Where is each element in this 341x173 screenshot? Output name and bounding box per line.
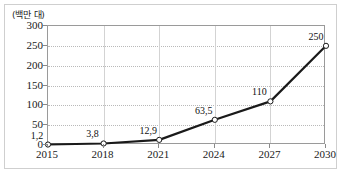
y-axis-tick-mark xyxy=(43,25,47,26)
x-axis-tick-mark xyxy=(269,144,270,148)
data-point-label: 3,8 xyxy=(86,128,99,139)
line-series xyxy=(48,26,326,145)
data-point-label: 1,2 xyxy=(31,130,44,141)
data-point-marker xyxy=(268,99,273,104)
y-axis-tick-label: 200 xyxy=(0,59,43,71)
y-axis-tick-label: 50 xyxy=(0,118,43,130)
data-point-label: 12,9 xyxy=(139,125,157,136)
data-point-label: 250 xyxy=(309,31,324,42)
plot-area xyxy=(47,25,325,144)
x-axis-tick-mark xyxy=(214,144,215,148)
y-axis-tick-label: 150 xyxy=(0,79,43,91)
y-axis-tick-label: 300 xyxy=(0,19,43,31)
x-axis-tick-label: 2024 xyxy=(203,148,225,160)
x-axis-tick-label: 2027 xyxy=(258,148,280,160)
y-axis-tick-label: 100 xyxy=(0,98,43,110)
data-point-marker xyxy=(212,117,217,122)
y-axis-tick-mark xyxy=(43,104,47,105)
x-axis-tick-mark xyxy=(158,144,159,148)
x-axis-tick-mark xyxy=(47,144,48,148)
y-axis-tick-mark xyxy=(43,85,47,86)
x-axis-tick-label: 2018 xyxy=(92,148,114,160)
x-axis-tick-label: 2030 xyxy=(314,148,336,160)
x-axis-tick-mark xyxy=(325,144,326,148)
y-axis-tick-mark xyxy=(43,65,47,66)
y-axis-tick-mark xyxy=(43,124,47,125)
data-point-label: 63,5 xyxy=(195,105,213,116)
data-point-marker xyxy=(323,43,328,48)
x-axis-tick-label: 2021 xyxy=(147,148,169,160)
data-point-label: 110 xyxy=(252,86,267,97)
x-axis-tick-label: 2015 xyxy=(36,148,58,160)
x-axis-tick-mark xyxy=(103,144,104,148)
y-axis-tick-mark xyxy=(43,45,47,46)
chart-figure: (백만 대) 050100150200250300 20152018202120… xyxy=(0,0,341,173)
y-axis-tick-label: 250 xyxy=(0,39,43,51)
data-point-marker xyxy=(157,137,162,142)
